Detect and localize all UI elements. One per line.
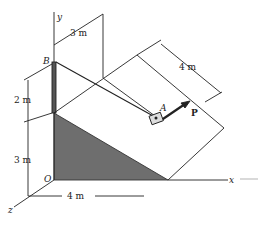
shaded-wall (54, 113, 168, 180)
force-p-label: P (191, 108, 198, 118)
z-axis-line (14, 180, 54, 207)
dim-label-3m: 3 m (14, 155, 32, 165)
x-axis-label: x (229, 175, 234, 185)
point-b-label: B (42, 56, 50, 66)
y-axis-label: y (56, 12, 63, 22)
block-a (149, 112, 163, 125)
dim-label-4m-bottom: 4 m (67, 191, 85, 201)
dim-label-3m-top: 3 m (70, 28, 88, 38)
point-a-label: A (159, 103, 167, 113)
dim-label-2m: 2 m (14, 95, 32, 105)
origin-label: O (44, 174, 52, 184)
cable-ba (56, 62, 155, 117)
pole (52, 62, 56, 113)
z-axis-label: z (7, 205, 13, 215)
diagram-canvas: y x z O B A P 3 m 4 m 2 m 3 m 4 m (0, 0, 258, 226)
projection-line (103, 78, 155, 116)
dim-label-4m-right: 4 m (179, 62, 197, 72)
